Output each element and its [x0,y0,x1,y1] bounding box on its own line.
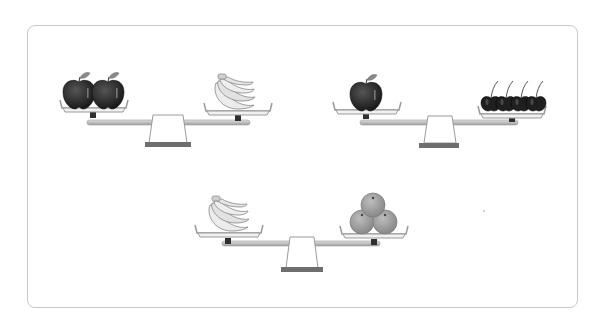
scale-base [419,143,459,148]
scale-base [145,142,191,147]
scale-2 [333,75,546,148]
scale-3 [195,193,408,272]
banana-bunch-icon [209,196,249,231]
pan-post [371,239,377,245]
scale-1 [60,73,272,147]
scale-fulcrum [286,237,318,268]
apple-icon [350,75,382,111]
apple-icon [92,73,124,109]
apple-icon [63,73,95,109]
banana-bunch-icon [215,74,255,109]
speck-mark [483,210,485,212]
scale-fulcrum [424,116,456,143]
balance-scales-illustration [0,0,602,325]
cherry-icon [526,81,546,111]
pan-post [225,238,231,244]
scale-fulcrum [149,115,187,143]
right-pan [340,226,408,238]
scale-base [281,267,323,272]
orange-icon [361,193,385,217]
pan-post [235,115,241,121]
pan-post [90,112,96,118]
